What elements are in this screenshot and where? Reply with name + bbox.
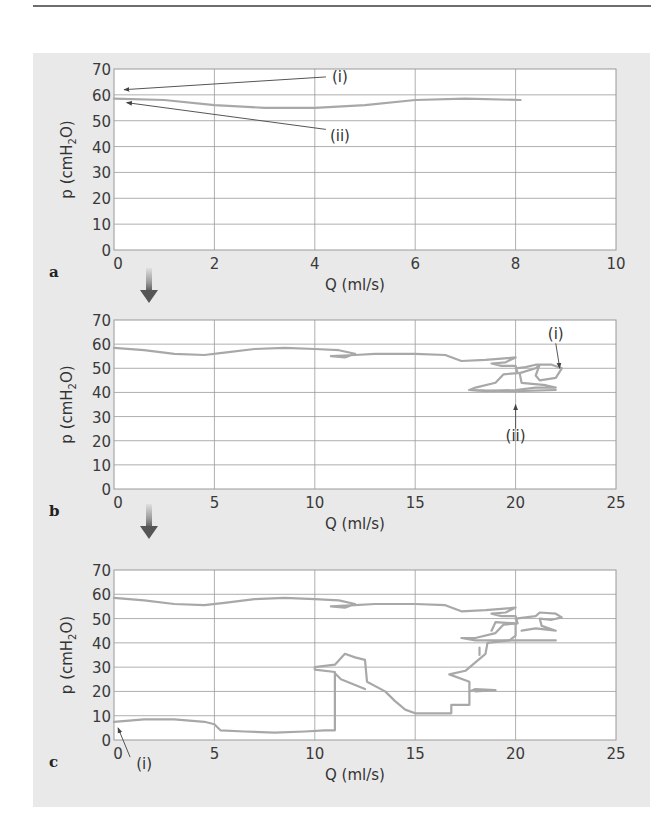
- y-tick-label: 40: [92, 635, 111, 653]
- x-tick-label: 25: [606, 745, 625, 763]
- x-axis-label: Q (ml/s): [325, 276, 385, 294]
- x-tick-label: 4: [310, 255, 320, 273]
- chart-panel-b: 0102030405060700510152025(i)(ii)Q (ml/s)…: [49, 312, 626, 533]
- y-tick-label: 70: [92, 61, 111, 79]
- x-tick-label: 25: [606, 494, 625, 512]
- y-tick-label: 70: [92, 562, 111, 580]
- y-tick-label: 50: [92, 611, 111, 629]
- x-tick-label: 2: [210, 255, 220, 273]
- x-tick-label: 0: [113, 745, 123, 763]
- annotation-label: (i): [548, 325, 564, 343]
- x-tick-label: 5: [210, 745, 220, 763]
- annotation-label: (ii): [330, 127, 350, 145]
- y-tick-label: 50: [92, 113, 111, 131]
- plot-area: [114, 320, 616, 489]
- y-tick-label: 30: [92, 659, 111, 677]
- y-tick-label: 0: [101, 481, 111, 499]
- y-tick-label: 20: [92, 433, 111, 451]
- chart-panel-c: 0102030405060700510152025(i)Q (ml/s)p (c…: [49, 562, 626, 784]
- x-tick-label: 0: [113, 494, 123, 512]
- y-tick-label: 10: [92, 708, 111, 726]
- x-tick-label: 6: [410, 255, 420, 273]
- x-tick-label: 20: [506, 745, 525, 763]
- x-tick-label: 10: [305, 745, 324, 763]
- annotation-label: (i): [332, 68, 348, 86]
- x-tick-label: 8: [511, 255, 521, 273]
- y-axis-label: p (cmH2O): [58, 616, 78, 694]
- y-tick-label: 40: [92, 384, 111, 402]
- x-tick-label: 5: [210, 494, 220, 512]
- x-tick-label: 10: [606, 255, 625, 273]
- panel-letter: a: [49, 263, 59, 281]
- y-tick-label: 30: [92, 164, 111, 182]
- y-tick-label: 0: [101, 732, 111, 750]
- panel-letter: b: [49, 502, 60, 520]
- x-tick-label: 20: [506, 494, 525, 512]
- panel-letter: c: [49, 753, 58, 771]
- x-tick-label: 10: [305, 494, 324, 512]
- y-tick-label: 70: [92, 312, 111, 330]
- annotation-label: (i): [136, 755, 152, 773]
- y-tick-label: 20: [92, 683, 111, 701]
- plot-area: [114, 570, 616, 740]
- y-axis-label: p (cmH2O): [58, 365, 78, 443]
- chart-panel-a: 0102030405060700246810(i)(ii)Q (ml/s)p (…: [49, 61, 626, 294]
- x-tick-label: 15: [406, 745, 425, 763]
- x-tick-label: 0: [113, 255, 123, 273]
- y-axis-label: p (cmH2O): [58, 120, 78, 198]
- plot-area: [114, 69, 616, 250]
- y-tick-label: 30: [92, 409, 111, 427]
- y-tick-label: 10: [92, 457, 111, 475]
- y-tick-label: 40: [92, 139, 111, 157]
- transition-arrow-icon: [140, 268, 158, 303]
- annotation-label: (ii): [506, 427, 526, 445]
- data-curve-pressure-flow-lower: [469, 390, 555, 391]
- transition-arrow-icon: [140, 504, 158, 539]
- y-tick-label: 60: [92, 87, 111, 105]
- figure-canvas: 0102030405060700246810(i)(ii)Q (ml/s)p (…: [0, 0, 668, 833]
- y-tick-label: 0: [101, 242, 111, 260]
- x-axis-label: Q (ml/s): [325, 515, 385, 533]
- x-axis-label: Q (ml/s): [325, 766, 385, 784]
- y-tick-label: 20: [92, 190, 111, 208]
- x-tick-label: 15: [406, 494, 425, 512]
- y-tick-label: 50: [92, 360, 111, 378]
- y-tick-label: 10: [92, 216, 111, 234]
- y-tick-label: 60: [92, 586, 111, 604]
- y-tick-label: 60: [92, 336, 111, 354]
